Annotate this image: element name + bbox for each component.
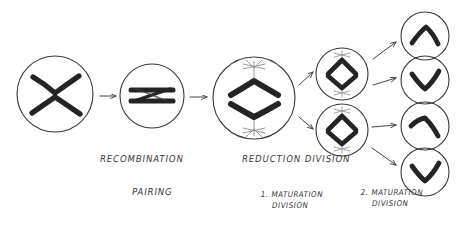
chromosome-chevron-up (412, 27, 438, 44)
arrow-reduction-to-upper (299, 72, 313, 85)
label-first-maturation-division-line2: DIVISION (239, 200, 341, 211)
cell-1-tetrad (17, 56, 93, 132)
label-second-maturation-division: 2. MATURATION DIVISION (339, 187, 442, 209)
cell-8-gamete (401, 102, 449, 150)
chromosome-chevron-down (412, 163, 439, 181)
chromatid-lower-chevron (328, 132, 356, 144)
label-second-maturation-division-line2: DIVISION (339, 198, 441, 209)
cell-7-gamete (401, 56, 449, 104)
chromosome-upper-chevron (231, 81, 278, 95)
cell-membrane-circle (401, 56, 449, 104)
arrow-upper-to-gamete1 (373, 42, 396, 59)
label-pairing: PAIRING (131, 186, 173, 197)
arrow-lower-to-gamete3 (372, 125, 396, 127)
arrow-lower-to-gamete4 (372, 148, 396, 165)
arrow-upper-to-gamete2 (373, 78, 396, 85)
cell-6-gamete (401, 12, 449, 60)
cell-5-lower (316, 104, 368, 156)
label-reduction-division: REDUCTION DIVISION (241, 153, 351, 164)
label-second-maturation-division-line1: 2. MATURATION (341, 187, 443, 198)
chromatid-lower-chevron (328, 76, 356, 88)
chromosome-lower (32, 97, 80, 114)
cell-membrane-circle (401, 12, 449, 60)
chromosome-upper (33, 76, 79, 93)
arrow-reduction-to-lower (299, 117, 313, 129)
cell-2-paired (120, 64, 184, 128)
label-first-maturation-division: 1. MATURATION DIVISION (239, 189, 342, 211)
cell-4-upper (316, 48, 368, 100)
label-recombination: RECOMBINATION (99, 153, 185, 164)
chromatid-upper-chevron (328, 60, 356, 74)
cell-3-metaphase (213, 57, 295, 139)
cell-membrane-circle (401, 102, 449, 150)
meiosis-diagram-canvas: RECOMBINATION PAIRING REDUCTION DIVISION… (0, 0, 460, 237)
chromatid-upper-chevron (328, 116, 356, 130)
chromosome-lower-chevron (231, 104, 278, 117)
label-first-maturation-division-line1: 1. MATURATION (241, 189, 343, 200)
chromosome-chevron-tilted (411, 118, 438, 136)
chromosome-chevron-down (412, 71, 439, 89)
